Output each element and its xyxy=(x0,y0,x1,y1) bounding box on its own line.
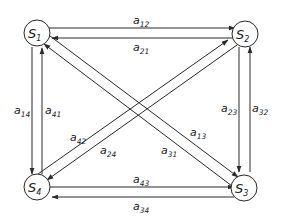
label-a42: a42 xyxy=(70,131,87,146)
edge-a24 xyxy=(47,45,237,180)
label-a31: a31 xyxy=(161,144,177,159)
node-s3: S3 xyxy=(231,175,257,201)
edge-a42 xyxy=(38,40,228,174)
node-s4: S4 xyxy=(24,174,50,200)
label-a41: a41 xyxy=(45,104,61,119)
edge-a13 xyxy=(50,36,238,177)
label-a32: a32 xyxy=(252,102,269,117)
label-a14: a14 xyxy=(14,104,31,119)
label-a13: a13 xyxy=(190,126,207,141)
node-s1: S1 xyxy=(24,20,50,46)
label-a23: a23 xyxy=(221,102,238,117)
label-a12: a12 xyxy=(133,14,150,29)
label-a24: a24 xyxy=(100,144,117,159)
label-a21: a21 xyxy=(133,41,149,56)
state-transition-diagram: S1 S2 S3 S4 a12 a21 a14 a41 a23 a32 a43 … xyxy=(0,0,281,220)
label-a43: a43 xyxy=(133,173,150,188)
node-s2: S2 xyxy=(232,21,258,47)
label-a34: a34 xyxy=(133,200,150,215)
